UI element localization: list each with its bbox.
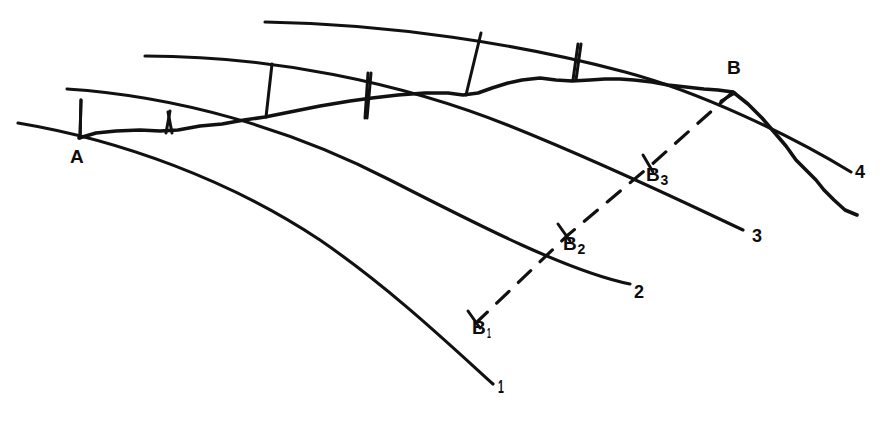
point-label-B3-subscript: 3 [660, 172, 668, 188]
point-label-A-text: A [70, 146, 84, 167]
tie-line-1b [80, 100, 81, 138]
tie-line-7 [466, 33, 481, 95]
curve-end-label-1: 1 [498, 377, 504, 396]
point-label-B1: B1 [472, 318, 495, 340]
arc-curve-4 [265, 22, 851, 172]
point-label-B1-subscript: 1 [487, 326, 491, 340]
curve-end-label-4: 4 [855, 163, 865, 181]
point-label-B3: B3 [646, 165, 668, 187]
point-label-B2: B2 [563, 234, 585, 256]
point-label-A: A [70, 147, 84, 166]
point-label-B1-text: B [472, 317, 486, 338]
point-label-B-text: B [727, 57, 741, 78]
irregular-profile-line [79, 78, 857, 215]
tick-mark-b [721, 93, 735, 101]
point-label-B3-text: B [646, 164, 660, 185]
point-label-B2-subscript: 2 [577, 241, 585, 257]
arc-curve-1 [18, 123, 493, 384]
point-label-B2-text: B [563, 233, 577, 254]
tie-line-4 [266, 64, 272, 117]
point-label-B: B [727, 58, 741, 77]
diagram-canvas: A B B1 B2 B3 1 2 3 4 [0, 0, 882, 421]
curve-end-label-2: 2 [634, 283, 644, 301]
diagram-vector-layer [0, 0, 882, 421]
curve-end-label-3: 3 [752, 227, 762, 245]
